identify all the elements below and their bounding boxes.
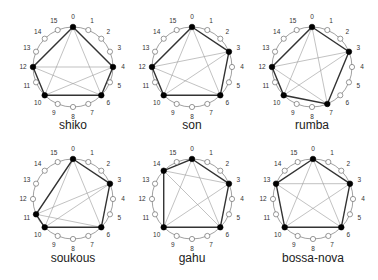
necklace-bossa-nova: 0123456789101112131415bossa-nova [259, 145, 365, 265]
rhythm-name-label: son [182, 118, 201, 132]
pulse-marker [99, 168, 104, 173]
pulse-number: 10 [34, 99, 42, 106]
pulse-number: 4 [360, 63, 364, 70]
pulse-number: 9 [292, 241, 296, 248]
onset-marker [33, 212, 39, 218]
onset-marker [226, 49, 232, 55]
onset-marker [217, 224, 223, 230]
pulse-number: 3 [117, 176, 121, 183]
pulse-number: 5 [236, 214, 240, 221]
pulse-marker [174, 27, 179, 32]
pulse-number: 3 [236, 176, 240, 183]
pulse-marker [281, 36, 286, 41]
pulse-marker [86, 159, 91, 164]
pulse-marker [161, 36, 166, 41]
pulse-marker [55, 233, 60, 238]
onset-marker [110, 64, 116, 70]
pulse-marker [174, 159, 179, 164]
pulse-marker [107, 212, 112, 217]
rhythm-name-label: bossa-nova [282, 251, 344, 265]
pulse-marker [229, 64, 234, 69]
pulse-number: 11 [142, 214, 149, 221]
pulse-number: 12 [138, 63, 146, 70]
pulse-number: 2 [347, 160, 351, 167]
pulse-number: 6 [346, 99, 350, 106]
pulse-marker [107, 80, 112, 85]
onset-marker [161, 168, 167, 174]
pulse-number: 15 [169, 17, 177, 24]
onset-marker [149, 64, 155, 70]
necklace-shiko: 0123456789101112131415shiko [19, 13, 125, 132]
pulse-marker [174, 101, 179, 106]
pulse-marker [270, 196, 275, 201]
rhythm-name-label: gahu [179, 251, 206, 265]
pulse-marker [152, 49, 157, 54]
pulse-number: 3 [357, 176, 361, 183]
pulse-marker [218, 168, 223, 173]
onset-marker [346, 49, 352, 55]
necklace-son: 0123456789101112131415son [138, 13, 244, 132]
onset-marker [70, 156, 76, 162]
pulse-marker [294, 27, 299, 32]
pulse-marker [310, 236, 315, 241]
pulse-number: 11 [142, 82, 149, 89]
pulse-marker [272, 80, 277, 85]
pulse-number: 6 [107, 231, 111, 238]
interval-chord [164, 27, 192, 95]
pulse-marker [205, 159, 210, 164]
pulse-number: 7 [209, 109, 213, 116]
pulse-number: 1 [209, 17, 213, 24]
pulse-marker [347, 212, 352, 217]
pulse-number: 7 [209, 241, 213, 248]
interval-chord [276, 184, 341, 228]
pulse-number: 14 [274, 160, 282, 167]
pulse-number: 6 [347, 231, 351, 238]
pulse-number: 4 [121, 63, 125, 70]
pulse-number: 9 [291, 109, 295, 116]
pulse-number: 13 [142, 176, 150, 183]
pulse-number: 12 [259, 195, 267, 202]
onset-marker [161, 224, 167, 230]
pulse-marker [295, 233, 300, 238]
pulse-marker [86, 233, 91, 238]
onset-marker [217, 92, 223, 98]
pulse-number: 2 [107, 28, 111, 35]
pulse-number: 12 [138, 195, 146, 202]
pulse-number: 15 [50, 17, 58, 24]
pulse-marker [205, 27, 210, 32]
pulse-number: 13 [262, 44, 270, 51]
pulse-number: 11 [263, 214, 270, 221]
pulse-marker [349, 64, 354, 69]
pulse-marker [149, 196, 154, 201]
pulse-number: 3 [356, 44, 360, 51]
onset-marker [273, 181, 279, 187]
onset-marker [70, 24, 76, 30]
pulse-marker [338, 36, 343, 41]
pulse-number: 10 [273, 99, 281, 106]
pulse-number: 1 [90, 17, 94, 24]
pulse-number: 3 [236, 44, 240, 51]
pulse-number: 0 [311, 145, 315, 152]
onset-marker [98, 224, 104, 230]
onset-marker [189, 156, 195, 162]
onset-marker [42, 224, 48, 230]
pulse-marker [107, 49, 112, 54]
onset-marker [161, 92, 167, 98]
pulse-marker [350, 196, 355, 201]
pulse-number: 5 [117, 214, 121, 221]
pulse-number: 1 [90, 149, 94, 156]
pulse-marker [42, 168, 47, 173]
pulse-number: 6 [226, 231, 230, 238]
pulse-number: 11 [23, 82, 30, 89]
pulse-number: 5 [236, 82, 240, 89]
pulse-number: 9 [171, 109, 175, 116]
pulse-marker [226, 80, 231, 85]
pulse-marker [152, 212, 157, 217]
pulse-marker [174, 233, 179, 238]
interval-chord [285, 184, 350, 228]
necklace-soukous: 0123456789101112131415soukous [19, 145, 125, 265]
pulse-number: 4 [361, 195, 365, 202]
pulse-marker [110, 196, 115, 201]
pulse-number: 0 [71, 145, 75, 152]
pulse-number: 15 [50, 149, 58, 156]
